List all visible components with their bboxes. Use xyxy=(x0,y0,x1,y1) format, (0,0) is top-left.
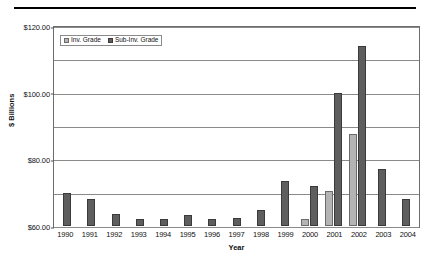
bar-2002-inv xyxy=(349,134,357,226)
y-axis-tick-label: $120.00 xyxy=(24,23,54,32)
bar-group xyxy=(370,28,394,226)
bar-2001-sub xyxy=(334,93,342,226)
bar-group xyxy=(273,28,297,226)
x-axis-tick-label: 2003 xyxy=(371,230,395,239)
bar-group xyxy=(176,28,200,226)
bar-group xyxy=(345,28,369,226)
chart-figure: $ Billions $120.00$100.00$80.00$60.00$40… xyxy=(0,0,430,261)
bar-group xyxy=(200,28,224,226)
legend-swatch-inv-grade-icon xyxy=(64,38,69,43)
bar-2000-sub xyxy=(310,186,318,226)
bar-group xyxy=(321,28,345,226)
bar-1990-sub xyxy=(63,193,71,226)
x-axis-tick-label: 2000 xyxy=(298,230,322,239)
bar-group xyxy=(297,28,321,226)
bar-group xyxy=(55,28,79,226)
bar-1997-sub xyxy=(233,218,241,226)
bar-1993-sub xyxy=(136,219,144,226)
bar-2003-sub xyxy=(378,169,386,226)
legend-swatch-sub-inv-grade-icon xyxy=(108,38,113,43)
y-axis-tick-label: $80.00 xyxy=(28,156,54,165)
x-axis-tick-labels: 1990199119921993199419951996199719981999… xyxy=(53,230,420,239)
x-axis-tick-label: 1992 xyxy=(102,230,126,239)
bar-group xyxy=(152,28,176,226)
bar-group xyxy=(103,28,127,226)
bar-group xyxy=(224,28,248,226)
plot-area: $120.00$100.00$80.00$60.00$40.00$20.00$0… xyxy=(53,26,420,228)
y-axis-tick-label: $100.00 xyxy=(24,89,54,98)
x-axis-tick-label: 1991 xyxy=(77,230,101,239)
legend-item-sub-inv-grade: Sub-Inv. Grade xyxy=(108,37,159,44)
x-axis-tick-label: 1998 xyxy=(249,230,273,239)
bar-1998-sub xyxy=(257,210,265,226)
bar-group xyxy=(249,28,273,226)
x-axis-tick-label: 2001 xyxy=(322,230,346,239)
bar-group xyxy=(394,28,418,226)
bar-2001-inv xyxy=(325,191,333,226)
x-axis-tick-label: 1994 xyxy=(151,230,175,239)
bar-1991-sub xyxy=(87,199,95,227)
bar-group xyxy=(128,28,152,226)
bar-1992-sub xyxy=(112,214,120,227)
bar-group xyxy=(79,28,103,226)
bar-2004-sub xyxy=(402,199,410,226)
x-axis-tick-label: 1999 xyxy=(273,230,297,239)
x-axis-tick-label: 2002 xyxy=(347,230,371,239)
bar-2000-inv xyxy=(301,219,309,227)
legend-label-inv-grade: Inv. Grade xyxy=(71,37,101,44)
bar-2002-sub xyxy=(358,46,366,226)
legend-item-inv-grade: Inv. Grade xyxy=(64,37,101,44)
x-axis-label: Year xyxy=(53,243,420,252)
bar-1999-sub xyxy=(281,181,289,226)
top-divider-rule xyxy=(14,7,416,9)
x-axis-tick-label: 1996 xyxy=(200,230,224,239)
y-axis-label: $ Billions xyxy=(7,94,16,127)
x-axis-tick-label: 2004 xyxy=(396,230,420,239)
x-axis-tick-label: 1997 xyxy=(224,230,248,239)
bar-1996-sub xyxy=(208,219,216,227)
chart-legend: Inv. Grade Sub-Inv. Grade xyxy=(60,35,162,46)
x-axis-tick-label: 1993 xyxy=(126,230,150,239)
bar-1995-sub xyxy=(184,215,192,226)
x-axis-tick-label: 1990 xyxy=(53,230,77,239)
bar-1994-sub xyxy=(160,219,168,226)
y-axis-tick-label: $60.00 xyxy=(28,223,54,232)
gridline: $0.00 xyxy=(54,227,419,228)
legend-label-sub-inv-grade: Sub-Inv. Grade xyxy=(115,37,159,44)
bars-group xyxy=(55,28,418,226)
x-axis-tick-label: 1995 xyxy=(175,230,199,239)
